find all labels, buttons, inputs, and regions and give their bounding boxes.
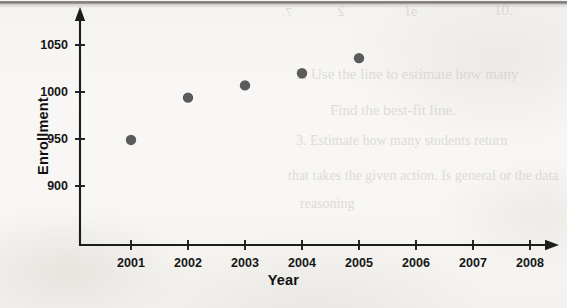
y-tick-label-1050: 1050 [18, 38, 68, 52]
x-tick-label-2001: 2001 [117, 256, 145, 270]
axes-group [75, 7, 559, 250]
axis-lines [80, 18, 548, 245]
data-point-2002 [183, 92, 193, 102]
data-point-2001 [126, 135, 136, 145]
scanned-page: 10.1e27.2. Use the line to estimate how … [0, 0, 567, 308]
x-tick-label-2008: 2008 [516, 256, 544, 270]
data-point-2005 [354, 53, 364, 63]
data-point-markers [126, 53, 364, 145]
x-tick-label-2004: 2004 [288, 256, 316, 270]
x-tick-label-2002: 2002 [174, 256, 202, 270]
y-axis-title: Enrollment [35, 66, 51, 206]
y-axis-arrowhead [75, 7, 85, 21]
x-tick-label-2007: 2007 [459, 256, 487, 270]
x-axis-arrowhead [545, 240, 559, 250]
x-tick-label-2003: 2003 [231, 256, 259, 270]
x-axis-title: Year [0, 272, 567, 288]
data-point-2004 [297, 68, 307, 78]
x-tick-label-2005: 2005 [345, 256, 373, 270]
x-tick-label-2006: 2006 [402, 256, 430, 270]
data-point-2003 [240, 80, 250, 90]
